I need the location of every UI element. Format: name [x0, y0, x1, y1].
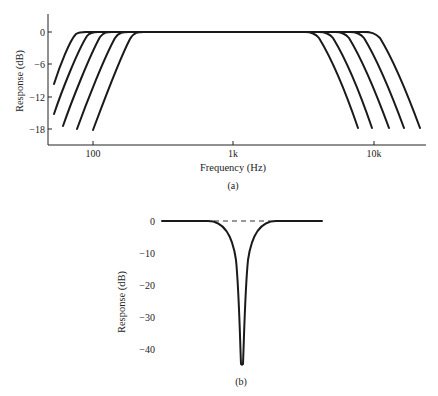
x-axis-title-a: Frequency (Hz): [200, 162, 267, 174]
high-cut-curve-4: [350, 32, 404, 128]
caption-b: (b): [235, 376, 247, 388]
y-axis-title-b: Response (dB): [116, 270, 128, 333]
y-tick-label: −20: [139, 280, 155, 291]
y-tick-label: −18: [29, 124, 45, 135]
high-cut-curve-1: [305, 32, 358, 128]
y-tick-label: −30: [139, 312, 155, 323]
low-cut-curve-4: [77, 32, 129, 129]
y-axis-title-a: Response (dB): [14, 49, 26, 112]
y-tick-label: −40: [139, 344, 155, 355]
y-tick-label: 0: [150, 216, 155, 227]
x-tick-label: 1k: [228, 148, 238, 159]
caption-a: (a): [227, 180, 238, 192]
chart-b: 0 −10 −20 −30 −40 Response (dB) (b): [116, 216, 322, 389]
x-tick-label: 10k: [367, 148, 382, 159]
y-tick-label: 0: [40, 27, 45, 38]
y-tick-label: −6: [34, 59, 45, 70]
low-cut-curve-3: [63, 32, 112, 126]
high-cut-curve-3: [335, 32, 389, 128]
x-tick-label: 100: [86, 148, 101, 159]
notch-curve: [162, 221, 322, 365]
y-tick-label: −12: [29, 92, 45, 103]
figure: 0 −6 −12 −18 100 1k 10k Frequency (Hz) R…: [0, 0, 438, 396]
high-cut-curve-5: [364, 32, 420, 128]
low-cut-curve-5: [93, 32, 144, 130]
chart-a: 0 −6 −12 −18 100 1k 10k Frequency (Hz) R…: [14, 14, 426, 192]
high-cut-curve-2: [319, 32, 372, 128]
y-tick-label: −10: [139, 248, 155, 259]
low-cut-curve-2: [54, 32, 98, 114]
